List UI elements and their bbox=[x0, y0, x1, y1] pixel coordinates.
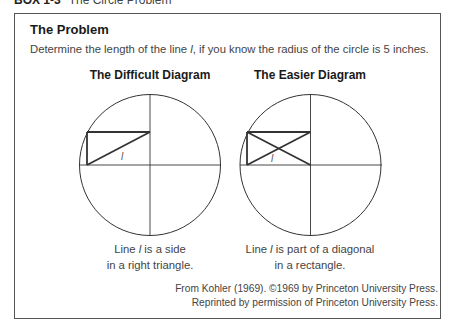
easier-caption-line1: Line l is part of a diagonal bbox=[215, 241, 405, 257]
credit-line2: Reprinted by permission of Princeton Uni… bbox=[175, 296, 438, 310]
line-l-hypotenuse bbox=[87, 132, 150, 165]
difficult-diagram bbox=[79, 94, 221, 236]
source-credit: From Kohler (1969). ©1969 by Princeton U… bbox=[175, 282, 438, 309]
easier-diagram bbox=[240, 94, 382, 236]
easier-caption: Line l is part of a diagonal in a rectan… bbox=[215, 241, 405, 273]
easier-caption-line2: in a rectangle. bbox=[215, 257, 405, 273]
credit-line1: From Kohler (1969). ©1969 by Princeton U… bbox=[175, 282, 438, 296]
easier-line-label: l bbox=[271, 153, 274, 164]
difficult-line-label: l bbox=[121, 151, 124, 162]
